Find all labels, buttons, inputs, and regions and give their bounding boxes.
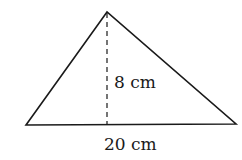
height-label: 8 cm <box>114 72 156 92</box>
triangle <box>26 12 236 125</box>
triangle-diagram: 8 cm 20 cm <box>0 0 242 160</box>
base-label: 20 cm <box>104 134 157 154</box>
